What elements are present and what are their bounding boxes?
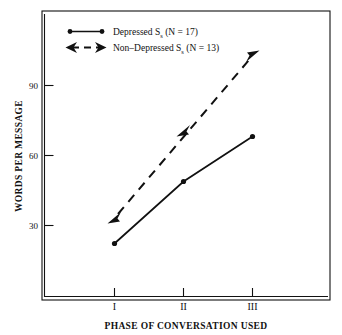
x-tick-label-phase-3: III — [248, 301, 258, 312]
y-tick-label-60: 60 — [29, 151, 39, 161]
legend-label-non-depressed: Non–Depressed Ss (N = 13) — [113, 43, 219, 55]
legend-marker-depressed-right — [100, 29, 105, 34]
legend-marker-depressed-left — [68, 29, 73, 34]
x-axis-title: PHASE OF CONVERSATION USED — [105, 321, 268, 331]
series-depressed-point-1 — [112, 241, 117, 246]
series-depressed-point-3 — [250, 134, 255, 139]
y-tick-label-30: 30 — [29, 221, 39, 231]
series-depressed-point-2 — [181, 179, 186, 184]
figure-container: 90 60 30 I II III PHASE OF CONVERSATION … — [0, 0, 342, 335]
line-chart: 90 60 30 I II III PHASE OF CONVERSATION … — [0, 0, 342, 335]
x-tick-label-phase-1: I — [113, 301, 116, 312]
legend-label-depressed: Depressed Ss (N = 17) — [113, 27, 198, 39]
chart-frame — [42, 11, 330, 300]
legend-label-non-depressed-tail: (N = 13) — [184, 43, 219, 54]
x-tick-label-phase-2: II — [180, 301, 187, 312]
y-axis-title: WORDS PER MESSAGE — [14, 100, 24, 212]
legend-label-non-depressed-main: Non–Depressed S — [113, 43, 181, 53]
legend-label-depressed-tail: (N = 17) — [163, 27, 198, 38]
legend-label-depressed-main: Depressed S — [113, 27, 160, 37]
y-tick-label-90: 90 — [29, 81, 39, 91]
